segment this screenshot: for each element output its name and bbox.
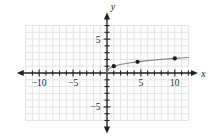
data-point-marker (112, 64, 116, 68)
coordinate-plane-figure: −10−55105−5xy (0, 0, 220, 136)
x-axis-tick-label: 5 (139, 78, 144, 88)
plot-canvas: −10−55105−5xy (0, 0, 220, 136)
x-axis-tick-label: −5 (68, 78, 78, 88)
y-axis-tick-label: 5 (96, 35, 101, 45)
x-axis-name-label: x (200, 68, 206, 79)
x-axis-tick-label: −10 (32, 78, 47, 88)
y-axis-tick-label: −5 (90, 102, 100, 112)
data-point-marker (173, 56, 177, 60)
x-axis-tick-label: 10 (170, 78, 180, 88)
y-axis-name-label: y (110, 1, 116, 12)
data-point-marker (135, 60, 139, 64)
